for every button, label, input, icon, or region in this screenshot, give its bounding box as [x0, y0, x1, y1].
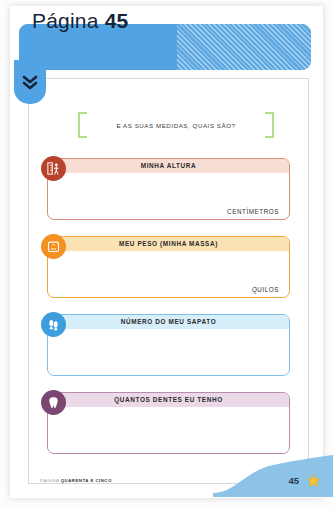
measure-box-height[interactable]: MINHA ALTURA CENTÍMETROS [47, 158, 290, 220]
double-chevron-down-icon [21, 74, 39, 92]
section-heading-text: E AS SUAS MEDIDAS, QUAIS SÃO? [116, 122, 235, 129]
measure-box-teeth-count[interactable]: QUANTOS DENTES EU TENHO [47, 392, 290, 454]
measure-box-height-unit: CENTÍMETROS [227, 208, 279, 215]
footer-note-lead: PÁGINA [40, 478, 59, 483]
footer-note-text: QUARENTA E CINCO [61, 478, 112, 483]
footer-note: PÁGINA QUARENTA E CINCO [40, 478, 112, 483]
measure-box-height-title: MINHA ALTURA [48, 159, 289, 173]
footer-page-number: 45 [288, 475, 299, 486]
measure-box-weight-title: MEU PESO (MINHA MASSA) [48, 237, 289, 251]
section-heading: E AS SUAS MEDIDAS, QUAIS SÃO? [78, 110, 274, 140]
page-sheet: Página 45 E AS SUAS MEDIDAS, QUAIS SÃO? … [0, 0, 333, 509]
banner-striped-section [177, 24, 311, 70]
page-title: Página 45 [32, 9, 128, 33]
footprints-icon [41, 312, 66, 337]
measure-box-teeth-count-input[interactable] [48, 407, 289, 453]
expand-section-tab[interactable] [14, 60, 46, 104]
tooth-icon [41, 390, 66, 415]
measure-box-shoe-size-title: NÚMERO DO MEU SAPATO [48, 315, 289, 329]
measure-box-weight-input[interactable]: QUILOS [48, 251, 289, 297]
height-ruler-icon [41, 156, 66, 181]
measure-box-weight[interactable]: MEU PESO (MINHA MASSA) QUILOS [47, 236, 290, 298]
bracket-left-icon [78, 112, 87, 138]
measure-box-height-input[interactable]: CENTÍMETROS [48, 173, 289, 219]
star-icon [306, 473, 321, 488]
page-title-prefix: Página [32, 9, 99, 32]
measure-box-shoe-size-input[interactable] [48, 329, 289, 375]
measure-box-teeth-count-title: QUANTOS DENTES EU TENHO [48, 393, 289, 407]
weight-scale-icon [41, 234, 66, 259]
measure-box-shoe-size[interactable]: NÚMERO DO MEU SAPATO [47, 314, 290, 376]
page-title-number: 45 [105, 9, 129, 32]
measure-box-weight-unit: QUILOS [252, 286, 279, 293]
bracket-right-icon [265, 112, 274, 138]
